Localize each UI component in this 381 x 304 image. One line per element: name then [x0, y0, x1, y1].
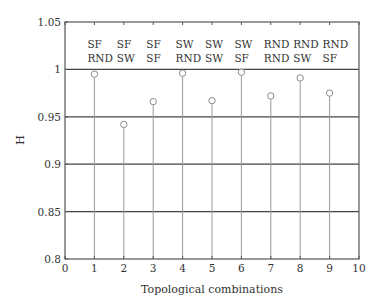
x-tick-label: 8	[297, 262, 304, 274]
annotation-line2: SF	[234, 52, 248, 64]
y-tick-label: 0.85	[38, 206, 61, 218]
stem-marker	[150, 98, 156, 104]
annotation-line1: SW	[205, 38, 223, 50]
y-tick-label: 0.95	[38, 111, 61, 123]
y-tick-label: 1	[54, 63, 61, 75]
annotation-line1: RND	[264, 38, 290, 50]
stem-marker	[209, 97, 215, 103]
annotation-line2: RND	[176, 52, 202, 64]
annotation-line2: SW	[293, 52, 311, 64]
y-tick-label: 1.05	[38, 16, 61, 28]
annotation-line1: SW	[234, 38, 252, 50]
x-tick-label: 1	[91, 262, 98, 274]
annotation-line1: RND	[323, 38, 349, 50]
stem-marker	[91, 71, 97, 77]
annotation-line1: SF	[87, 38, 101, 50]
x-tick-label: 10	[352, 262, 365, 274]
annotation-line1: SF	[146, 38, 160, 50]
annotation-line2: RND	[87, 52, 113, 64]
x-tick-label: 9	[326, 262, 333, 274]
stem-marker	[121, 121, 127, 127]
x-tick-label: 3	[150, 262, 157, 274]
annotation-line1: SF	[117, 38, 131, 50]
stem-marker	[297, 75, 303, 81]
y-axis-title: H	[14, 135, 27, 145]
stem-marker	[238, 69, 244, 75]
x-tick-label: 2	[120, 262, 127, 274]
annotation-line1: SW	[176, 38, 194, 50]
y-tick-label: 0.8	[44, 253, 61, 265]
annotation-line2: SW	[117, 52, 135, 64]
x-tick-label: 6	[238, 262, 245, 274]
x-tick-label: 0	[62, 262, 69, 274]
annotation-line2: RND	[264, 52, 290, 64]
x-tick-label: 7	[267, 262, 274, 274]
annotation-line2: SF	[146, 52, 160, 64]
x-axis-title: Topological combinations	[141, 283, 283, 296]
stem-marker	[179, 70, 185, 76]
stem-chart: 0.80.850.90.9511.05012345678910 SFRNDSFS…	[0, 0, 381, 304]
point-annotations: SFRNDSFSWSFSFSWRNDSWSWSWSFRNDRNDRNDSWRND…	[87, 38, 348, 64]
x-tick-label: 4	[179, 262, 186, 274]
annotation-line2: SF	[323, 52, 337, 64]
x-tick-label: 5	[209, 262, 216, 274]
annotation-line1: RND	[293, 38, 319, 50]
stem-marker	[326, 90, 332, 96]
stem-marker	[268, 93, 274, 99]
y-tick-label: 0.9	[44, 158, 61, 170]
annotation-line2: SW	[205, 52, 223, 64]
